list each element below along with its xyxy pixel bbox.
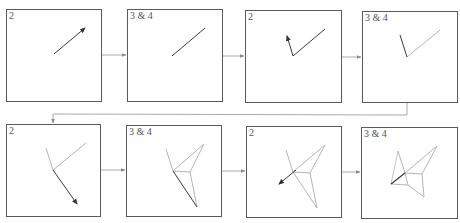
step-label: 2 [9,125,14,137]
construction-sequence-diagram: 2 3 & 4 2 3 & 4 2 3 & 4 2 3 & 4 [0,0,460,223]
step-label: 2 [249,127,254,139]
step-label: 3 & 4 [365,12,388,24]
step-panel-5: 2 [6,124,101,217]
step-label: 3 & 4 [129,126,152,138]
step-panel-6: 3 & 4 [126,125,222,217]
step-panel-8: 3 & 4 [361,127,458,219]
step-label: 2 [9,10,14,22]
step-label: 3 & 4 [130,10,153,22]
connector-arrows [53,55,407,172]
step-label: 3 & 4 [364,128,387,140]
step-panel-7: 2 [246,126,342,218]
connector-4-5 [53,103,407,123]
step-panel-2: 3 & 4 [127,9,223,102]
step-panel-1: 2 [6,9,102,102]
step-panel-4: 3 & 4 [362,11,458,103]
step-label: 2 [248,11,253,23]
step-panel-3: 2 [245,10,342,103]
